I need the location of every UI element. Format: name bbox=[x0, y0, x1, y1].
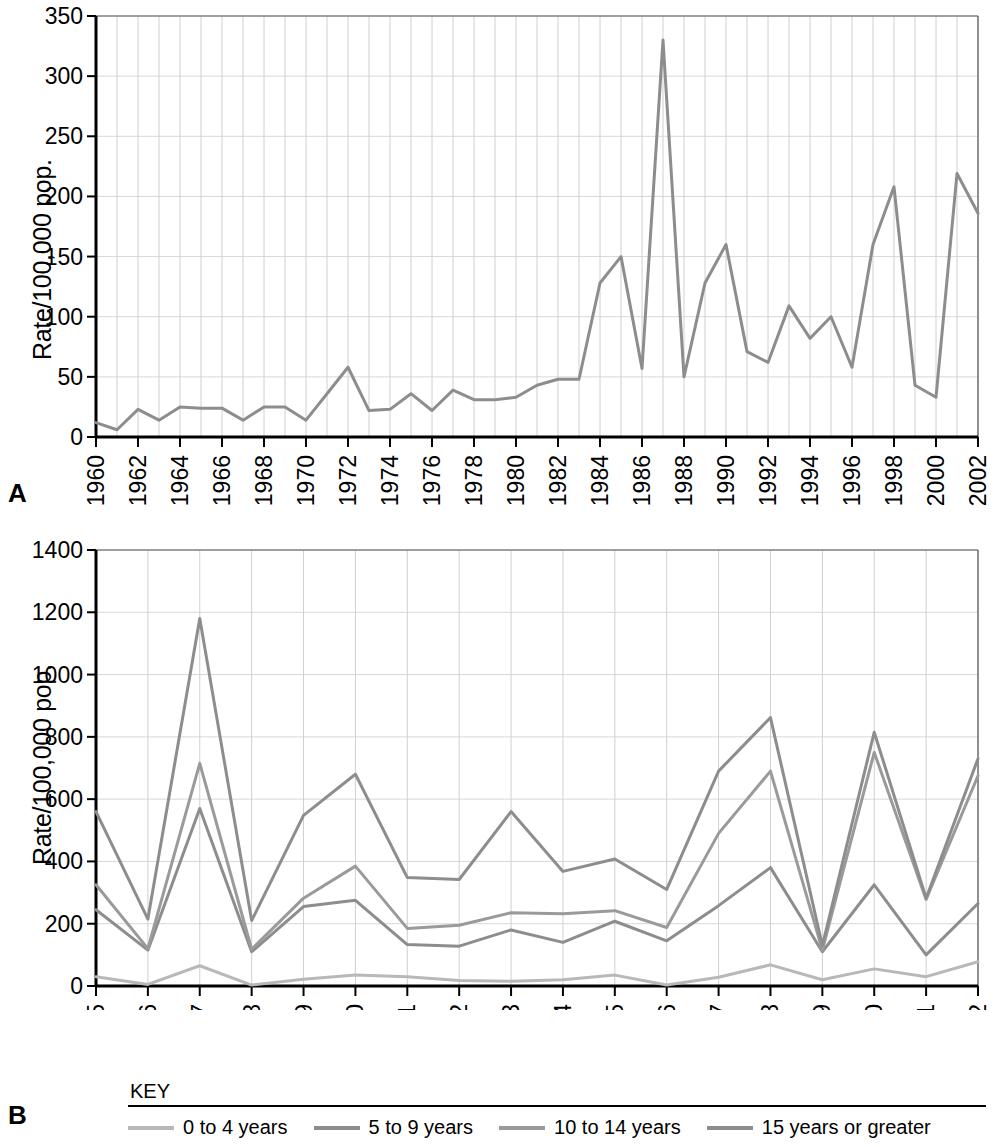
x-tick-label: 1995 bbox=[602, 1004, 628, 1010]
x-tick-label: 2001 bbox=[913, 1004, 939, 1010]
legend-item: 5 to 9 years bbox=[314, 1116, 474, 1139]
legend-item-label: 15 years or greater bbox=[762, 1116, 931, 1139]
x-tick-label: 1960 bbox=[83, 455, 109, 506]
x-tick-label: 1990 bbox=[342, 1004, 368, 1010]
panel-letter-b: B bbox=[8, 1100, 27, 1131]
panel-b: Rate/100,000 pop. 0200400600800100012001… bbox=[0, 530, 1000, 1147]
x-tick-label: 1986 bbox=[629, 455, 655, 506]
x-tick-label: 1991 bbox=[394, 1004, 420, 1010]
x-tick-label: 1985 bbox=[83, 1004, 109, 1010]
legend-item-label: 5 to 9 years bbox=[369, 1116, 474, 1139]
x-tick-label: 1984 bbox=[587, 455, 613, 506]
legend-divider bbox=[128, 1105, 986, 1107]
x-tick-label: 1998 bbox=[757, 1004, 783, 1010]
legend-title: KEY bbox=[128, 1080, 988, 1102]
x-tick-label: 1988 bbox=[239, 1004, 265, 1010]
legend-item: 15 years or greater bbox=[707, 1116, 931, 1139]
y-tick-label: 400 bbox=[45, 848, 83, 874]
x-tick-label: 1974 bbox=[377, 455, 403, 506]
x-tick-label: 1986 bbox=[135, 1004, 161, 1010]
chart-a-plot: 0501001502002503003501960196219641966196… bbox=[0, 0, 1000, 530]
x-tick-label: 1996 bbox=[839, 455, 865, 506]
legend-item-label: 10 to 14 years bbox=[554, 1116, 681, 1139]
x-tick-label: 1962 bbox=[125, 455, 151, 506]
x-tick-label: 1998 bbox=[881, 455, 907, 506]
data-series-line bbox=[96, 619, 978, 946]
x-tick-label: 1996 bbox=[654, 1004, 680, 1010]
data-series-line bbox=[96, 962, 978, 985]
data-series-line bbox=[96, 808, 978, 954]
x-tick-label: 1978 bbox=[461, 455, 487, 506]
x-tick-label: 1968 bbox=[251, 455, 277, 506]
x-tick-label: 2000 bbox=[861, 1004, 887, 1010]
legend-swatch-line-icon bbox=[499, 1126, 545, 1130]
x-tick-label: 1976 bbox=[419, 455, 445, 506]
x-tick-label: 1987 bbox=[187, 1004, 213, 1010]
legend-swatch-line-icon bbox=[128, 1126, 174, 1130]
x-tick-label: 2000 bbox=[923, 455, 949, 506]
y-tick-label: 1000 bbox=[32, 662, 83, 688]
x-tick-label: 1993 bbox=[498, 1004, 524, 1010]
y-tick-label: 100 bbox=[45, 304, 83, 330]
x-tick-label: 1964 bbox=[167, 455, 193, 506]
y-tick-label: 600 bbox=[45, 786, 83, 812]
y-tick-label: 1400 bbox=[32, 537, 83, 563]
legend-swatch-line-icon bbox=[707, 1126, 753, 1130]
y-tick-label: 800 bbox=[45, 724, 83, 750]
y-tick-label: 150 bbox=[45, 244, 83, 270]
y-tick-label: 200 bbox=[45, 911, 83, 937]
legend-item: 0 to 4 years bbox=[128, 1116, 288, 1139]
legend-items: 0 to 4 years5 to 9 years10 to 14 years15… bbox=[128, 1116, 988, 1139]
x-tick-label: 1988 bbox=[671, 455, 697, 506]
y-tick-label: 250 bbox=[45, 123, 83, 149]
legend: KEY 0 to 4 years5 to 9 years10 to 14 yea… bbox=[128, 1080, 988, 1139]
y-tick-label: 0 bbox=[70, 973, 83, 999]
x-tick-label: 1994 bbox=[550, 1004, 576, 1010]
y-tick-label: 1200 bbox=[32, 599, 83, 625]
x-tick-label: 1972 bbox=[335, 455, 361, 506]
y-tick-label: 350 bbox=[45, 3, 83, 29]
x-tick-label: 1992 bbox=[446, 1004, 472, 1010]
x-tick-label: 1992 bbox=[755, 455, 781, 506]
x-tick-label: 1999 bbox=[809, 1004, 835, 1010]
y-tick-label: 300 bbox=[45, 63, 83, 89]
x-tick-label: 1989 bbox=[291, 1004, 317, 1010]
legend-item-label: 0 to 4 years bbox=[183, 1116, 288, 1139]
panel-letter-a: A bbox=[8, 478, 27, 509]
panel-a: Rate/100,000 pop. 0501001502002503003501… bbox=[0, 0, 1000, 530]
y-tick-label: 200 bbox=[45, 183, 83, 209]
x-tick-label: 1997 bbox=[706, 1004, 732, 1010]
legend-swatch-line-icon bbox=[314, 1126, 360, 1130]
x-tick-label: 1966 bbox=[209, 455, 235, 506]
x-tick-label: 2002 bbox=[965, 1004, 991, 1010]
x-tick-label: 1990 bbox=[713, 455, 739, 506]
y-tick-label: 50 bbox=[57, 364, 83, 390]
x-tick-label: 1980 bbox=[503, 455, 529, 506]
x-tick-label: 1982 bbox=[545, 455, 571, 506]
x-tick-label: 2002 bbox=[965, 455, 991, 506]
x-tick-label: 1970 bbox=[293, 455, 319, 506]
y-tick-label: 0 bbox=[70, 424, 83, 450]
x-tick-label: 1994 bbox=[797, 455, 823, 506]
chart-b-plot: 0200400600800100012001400198519861987198… bbox=[0, 530, 1000, 1010]
legend-item: 10 to 14 years bbox=[499, 1116, 681, 1139]
